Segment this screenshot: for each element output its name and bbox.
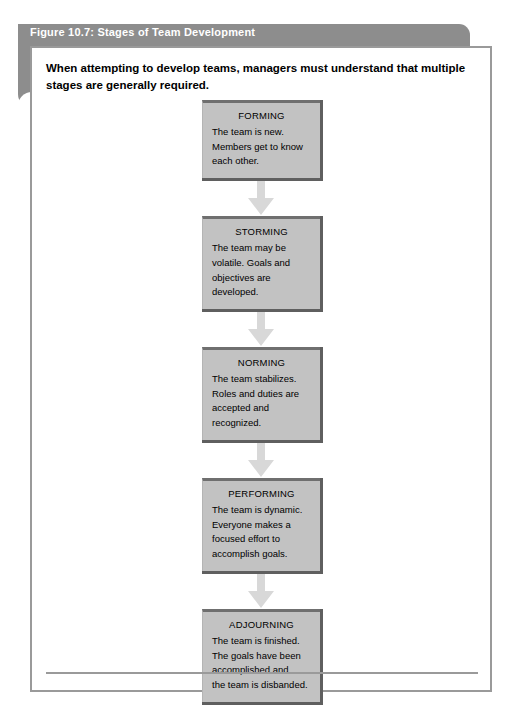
stage-body-line: The team is dynamic. bbox=[212, 503, 311, 518]
stage-body-line: Members get to know bbox=[212, 140, 311, 155]
stage-body: The team stabilizes. Roles and duties ar… bbox=[212, 372, 311, 431]
figure-intro-text: When attempting to develop teams, manage… bbox=[46, 60, 466, 95]
flow-row: PERFORMING The team is dynamic. Everyone… bbox=[32, 478, 490, 571]
stage-body: The team is new. Members get to know eac… bbox=[212, 125, 311, 169]
stage-body-line: Roles and duties are bbox=[212, 387, 311, 402]
stage-body-line: The team may be bbox=[212, 241, 311, 256]
figure-content-panel: When attempting to develop teams, manage… bbox=[30, 46, 492, 692]
stage-body-line: developed. bbox=[212, 285, 311, 300]
stage-title: PERFORMING bbox=[212, 488, 311, 499]
stage-box-adjourning[interactable]: ADJOURNING The team is finished. The goa… bbox=[202, 609, 320, 702]
flow-arrow-storming-to-norming bbox=[32, 309, 490, 347]
stage-title: STORMING bbox=[212, 226, 311, 237]
stage-body-line: each other. bbox=[212, 154, 311, 169]
stage-body-line: The goals have been bbox=[212, 649, 311, 664]
figure-title: Figure 10.7: Stages of Team Development bbox=[30, 26, 255, 38]
stage-body-line: volatile. Goals and bbox=[212, 256, 311, 271]
flow-arrow-norming-to-performing bbox=[32, 440, 490, 478]
stage-body-line: recognized. bbox=[212, 416, 311, 431]
figure-container: Figure 10.7: Stages of Team Development … bbox=[0, 0, 517, 723]
stage-body-line: objectives are bbox=[212, 271, 311, 286]
stage-body-line: accepted and bbox=[212, 401, 311, 416]
stage-body-line: accomplish goals. bbox=[212, 547, 311, 562]
stage-body-line: the team is disbanded. bbox=[212, 678, 311, 693]
stage-box-norming[interactable]: NORMING The team stabilizes. Roles and d… bbox=[202, 347, 320, 440]
stage-body: The team is dynamic. Everyone makes a fo… bbox=[212, 503, 311, 562]
stage-box-forming[interactable]: FORMING The team is new. Members get to … bbox=[202, 100, 320, 178]
figure-bottom-rule bbox=[46, 672, 478, 674]
flow-row: FORMING The team is new. Members get to … bbox=[32, 100, 490, 178]
stage-box-storming[interactable]: STORMING The team may be volatile. Goals… bbox=[202, 216, 320, 309]
flow-arrow-performing-to-adjourning bbox=[32, 571, 490, 609]
flow-arrow-forming-to-storming bbox=[32, 178, 490, 216]
stage-body-line: The team is new. bbox=[212, 125, 311, 140]
stage-box-performing[interactable]: PERFORMING The team is dynamic. Everyone… bbox=[202, 478, 320, 571]
stage-body: The team may be volatile. Goals and obje… bbox=[212, 241, 311, 300]
stage-body-line: focused effort to bbox=[212, 532, 311, 547]
stage-body-line: accomplished and bbox=[212, 663, 311, 678]
flow-row: ADJOURNING The team is finished. The goa… bbox=[32, 609, 490, 702]
flow-row: NORMING The team stabilizes. Roles and d… bbox=[32, 347, 490, 440]
stage-body-line: Everyone makes a bbox=[212, 518, 311, 533]
stage-body-line: The team is finished. bbox=[212, 634, 311, 649]
stage-body-line: The team stabilizes. bbox=[212, 372, 311, 387]
stage-title: NORMING bbox=[212, 357, 311, 368]
flowchart: FORMING The team is new. Members get to … bbox=[32, 100, 490, 702]
flow-row: STORMING The team may be volatile. Goals… bbox=[32, 216, 490, 309]
stage-title: FORMING bbox=[212, 110, 311, 121]
stage-body: The team is finished. The goals have bee… bbox=[212, 634, 311, 693]
stage-title: ADJOURNING bbox=[212, 619, 311, 630]
